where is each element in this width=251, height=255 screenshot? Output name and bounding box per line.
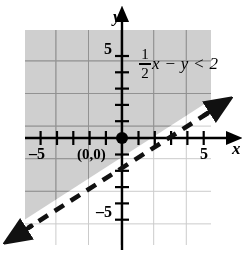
inequality-annotation: 1 2 x − y < 2 [139,47,218,81]
y-axis-label: y [113,8,121,25]
y-tick-label-minus-5: –5 [96,204,112,220]
fraction-one-half: 1 2 [139,47,151,81]
inequality-graph-figure: y x –5 5 5 –5 (0,0) 1 2 x − y < 2 [0,0,251,255]
origin-point-label: (0,0) [77,147,106,162]
x-tick-label-minus-5: –5 [29,146,45,162]
axes-and-boundary-overlay [0,0,251,255]
fraction-denominator: 2 [139,65,151,81]
x-axis-label: x [232,140,241,157]
x-tick-label-5: 5 [200,146,208,162]
y-tick-label-5: 5 [104,41,112,57]
inequality-expression-text: x − y < 2 [152,55,218,72]
fraction-numerator: 1 [139,47,151,63]
origin-point-marker [116,132,128,144]
